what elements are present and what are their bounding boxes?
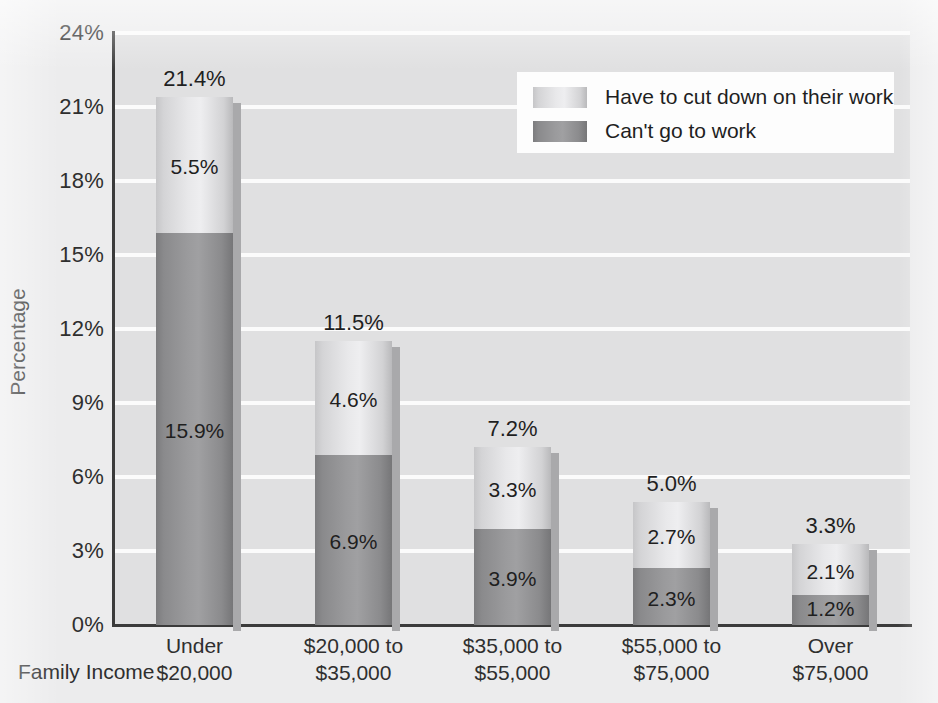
bar-total-label: 3.3% xyxy=(792,513,869,539)
bar-shadow xyxy=(551,453,559,631)
bar-stack[interactable]: 3.9%3.3%7.2% xyxy=(474,447,551,625)
x-axis-tick-label-line: $35,000 to xyxy=(423,633,603,660)
y-axis-tick-label: 18% xyxy=(18,168,104,194)
bar-shadow xyxy=(869,550,877,631)
x-axis-tick-label: $55,000 to$75,000 xyxy=(582,633,762,686)
bar-shadow xyxy=(710,508,718,631)
legend: Have to cut down on their workCan't go t… xyxy=(517,72,894,153)
x-axis-tick-label-line: $55,000 to xyxy=(582,633,762,660)
bar-value-label: 3.9% xyxy=(474,567,551,591)
bar-value-label: 6.9% xyxy=(315,530,392,554)
y-axis-tick-label: 12% xyxy=(18,316,104,342)
bar-shadow xyxy=(392,347,400,631)
y-axis-tick-label: 0% xyxy=(18,612,104,638)
x-axis-tick-label-line: $35,000 xyxy=(264,660,444,687)
bar-value-label: 2.1% xyxy=(792,560,869,584)
bar-total-label: 11.5% xyxy=(315,310,392,336)
bar-stack[interactable]: 15.9%5.5%21.4% xyxy=(156,97,233,625)
legend-item[interactable]: Have to cut down on their work xyxy=(533,84,893,110)
bar-value-label: 1.2% xyxy=(792,597,869,621)
legend-swatch xyxy=(533,121,587,142)
x-axis-tick-label-line: Over xyxy=(741,633,921,660)
bar-value-label: 15.9% xyxy=(156,419,233,443)
x-axis-tick-label-line: $55,000 xyxy=(423,660,603,687)
bar-shadow xyxy=(233,103,241,631)
x-axis-tick-label: Over$75,000 xyxy=(741,633,921,686)
y-axis-tick-label: 6% xyxy=(18,464,104,490)
bar-value-label: 2.7% xyxy=(633,525,710,549)
bar-total-label: 21.4% xyxy=(156,66,233,92)
y-axis-tick-label: 3% xyxy=(18,538,104,564)
bar-value-label: 4.6% xyxy=(315,388,392,412)
x-axis-tick-label: $20,000 to$35,000 xyxy=(264,633,444,686)
bar-stack[interactable]: 1.2%2.1%3.3% xyxy=(792,544,869,625)
bar-stack[interactable]: 2.3%2.7%5.0% xyxy=(633,502,710,625)
x-axis-tick-label-line: $75,000 xyxy=(741,660,921,687)
bar-value-label: 2.3% xyxy=(633,587,710,611)
x-axis-tick-label-line: $20,000 to xyxy=(264,633,444,660)
x-axis-title: Family Income xyxy=(18,660,155,684)
chart-figure: Percentage 0%3%6%9%12%15%18%21%24% 15.9%… xyxy=(0,0,938,703)
x-axis-tick-label-line: Under xyxy=(105,633,285,660)
legend-item[interactable]: Can't go to work xyxy=(533,118,756,144)
legend-label: Have to cut down on their work xyxy=(605,85,893,109)
y-axis-tick-label: 9% xyxy=(18,390,104,416)
x-axis-tick-label-line: $75,000 xyxy=(582,660,762,687)
y-axis-tick-label: 15% xyxy=(18,242,104,268)
bar-total-label: 7.2% xyxy=(474,416,551,442)
bar-stack[interactable]: 6.9%4.6%11.5% xyxy=(315,341,392,625)
y-axis-tick-label: 21% xyxy=(18,94,104,120)
legend-swatch xyxy=(533,87,587,108)
y-axis-tick-label: 24% xyxy=(18,20,104,46)
bar-value-label: 5.5% xyxy=(156,155,233,179)
x-axis-tick-label: $35,000 to$55,000 xyxy=(423,633,603,686)
bar-value-label: 3.3% xyxy=(474,478,551,502)
y-axis-line xyxy=(112,31,115,627)
y-axis-tick-labels: 0%3%6%9%12%15%18%21%24% xyxy=(0,0,104,703)
legend-label: Can't go to work xyxy=(605,119,756,143)
gridline xyxy=(115,31,910,35)
bar-total-label: 5.0% xyxy=(633,471,710,497)
